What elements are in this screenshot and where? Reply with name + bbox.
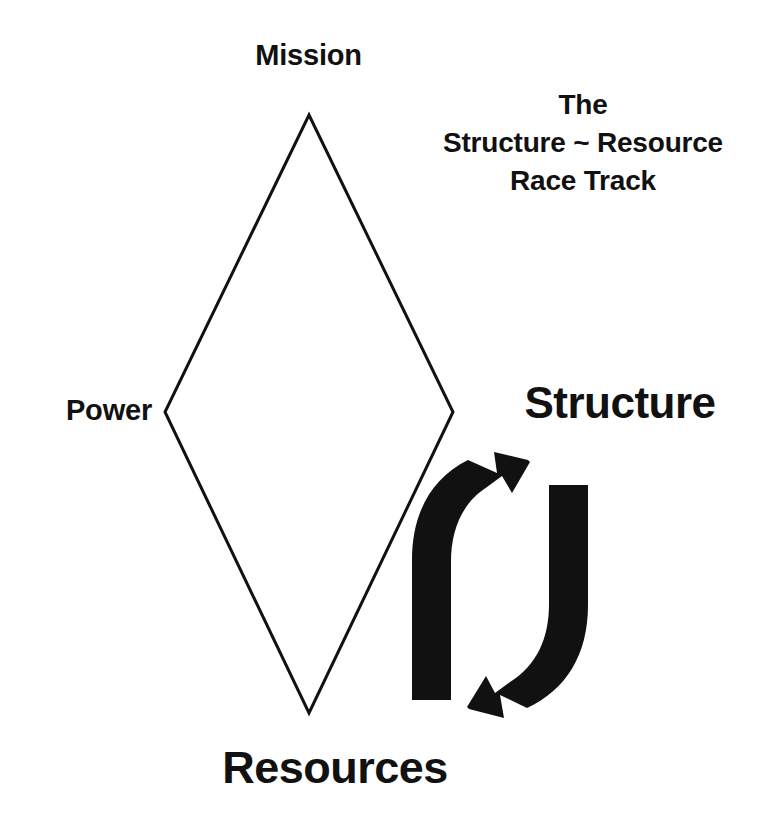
figure-title: The Structure ~ Resource Race Track bbox=[395, 86, 771, 200]
figure-title-line-2: Structure ~ Resource bbox=[395, 124, 771, 162]
diagram-canvas: Mission Power Structure Resources The St… bbox=[0, 0, 771, 833]
diamond-outline bbox=[165, 115, 453, 713]
vertex-label-resources: Resources bbox=[150, 742, 520, 794]
vertex-label-mission: Mission bbox=[0, 38, 617, 72]
vertex-label-power: Power bbox=[0, 393, 152, 427]
figure-title-line-1: The bbox=[395, 86, 771, 124]
figure-title-line-3: Race Track bbox=[395, 162, 771, 200]
node-label-structure: Structure bbox=[470, 378, 770, 428]
downward-arrow-icon bbox=[467, 485, 588, 718]
upward-arrow-icon bbox=[412, 452, 530, 700]
